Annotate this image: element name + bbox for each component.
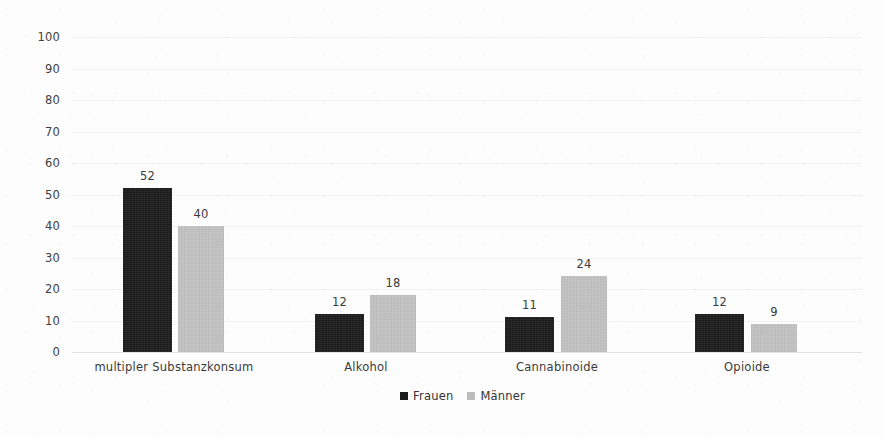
y-tick-label: 20 [0,282,60,296]
gridline-90 [72,69,862,70]
y-tick-label: 100 [0,30,60,44]
bar-frauen-multipler-substanzkonsum[interactable]: 52 [123,188,172,352]
legend-item-frauen[interactable]: Frauen [400,389,453,403]
y-tick-label: 50 [0,188,60,202]
gridline-baseline-0 [72,352,862,353]
y-tick-label: 70 [0,125,60,139]
legend-swatch-icon [400,392,408,400]
plot-area: 52 40 12 18 11 24 12 9 [72,37,862,352]
legend-label: Frauen [413,389,453,403]
gridline-50 [72,195,862,196]
legend-item-maenner[interactable]: Männer [467,389,525,403]
category-label-cannabinoide: Cannabinoide [516,360,598,374]
gridline-70 [72,132,862,133]
y-tick-label: 60 [0,156,60,170]
y-tick-label: 30 [0,251,60,265]
legend-label: Männer [480,389,525,403]
bar-maenner-cannabinoide[interactable]: 24 [561,276,607,352]
legend-swatch-icon [467,392,475,400]
bar-value-label: 40 [193,207,208,221]
bar-chart: 100 90 80 70 60 50 40 30 20 10 0 52 40 [0,0,885,438]
bar-value-label: 52 [140,169,155,183]
y-tick-label: 90 [0,62,60,76]
y-tick-label: 80 [0,93,60,107]
category-label-multipler-substanzkonsum: multipler Substanzkonsum [94,360,253,374]
bar-value-label: 18 [385,276,400,290]
y-tick-label: 40 [0,219,60,233]
y-tick-label: 0 [0,345,60,359]
bar-frauen-opioide[interactable]: 12 [695,314,744,352]
bar-value-label: 24 [576,257,591,271]
bar-frauen-cannabinoide[interactable]: 11 [505,317,554,352]
bar-maenner-multipler-substanzkonsum[interactable]: 40 [178,226,224,352]
bar-maenner-opioide[interactable]: 9 [751,324,797,352]
bar-value-label: 12 [332,295,347,309]
gridline-60 [72,163,862,164]
gridline-100 [72,37,862,38]
bar-maenner-alkohol[interactable]: 18 [370,295,416,352]
chart-legend: Frauen Männer [0,389,885,403]
bar-value-label: 12 [712,295,727,309]
category-label-alkohol: Alkohol [344,360,388,374]
category-label-opioide: Opioide [724,360,770,374]
y-tick-label: 10 [0,314,60,328]
bar-frauen-alkohol[interactable]: 12 [315,314,364,352]
gridline-80 [72,100,862,101]
bar-value-label: 9 [770,305,778,319]
bar-value-label: 11 [522,298,537,312]
